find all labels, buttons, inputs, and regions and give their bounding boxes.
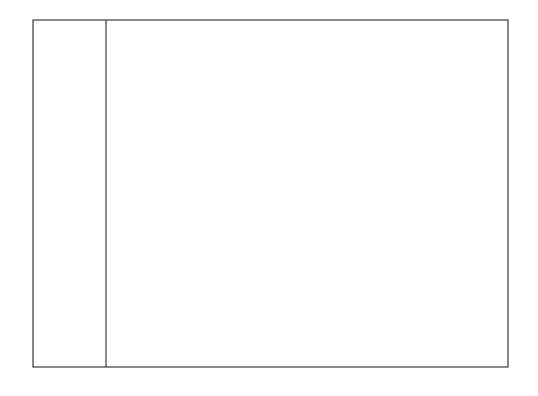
- ecg-figure: [0, 0, 538, 396]
- figure-frame: [33, 20, 508, 367]
